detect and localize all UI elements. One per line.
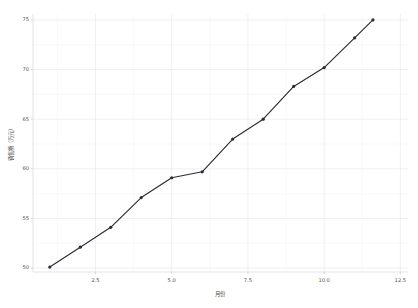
y-tick-label: 50 bbox=[22, 264, 29, 270]
line-chart-canvas[interactable]: 505560657075 2.55.07.510.012.5 月份 销售额（万元… bbox=[0, 0, 418, 308]
series-data-point[interactable] bbox=[262, 118, 265, 121]
x-tick-label: 10.0 bbox=[318, 277, 330, 283]
series-data-point[interactable] bbox=[292, 85, 295, 88]
y-tick-label: 65 bbox=[22, 116, 29, 122]
series-data-point[interactable] bbox=[48, 265, 51, 268]
series-data-point[interactable] bbox=[170, 176, 173, 179]
series-data-point[interactable] bbox=[353, 36, 356, 39]
series-data-point[interactable] bbox=[79, 246, 82, 249]
chart-figure: 505560657075 2.55.07.510.012.5 月份 销售额（万元… bbox=[0, 0, 418, 308]
series-data-point[interactable] bbox=[109, 226, 112, 229]
y-tick-label: 60 bbox=[22, 165, 29, 171]
x-tick-label: 5.0 bbox=[168, 277, 176, 283]
series-data-point[interactable] bbox=[231, 137, 234, 140]
series-data-point[interactable] bbox=[323, 66, 326, 69]
y-tick-label: 55 bbox=[22, 215, 29, 221]
x-tick-label: 7.5 bbox=[244, 277, 252, 283]
x-tick-label: 12.5 bbox=[395, 277, 407, 283]
x-axis-title: 月份 bbox=[215, 290, 226, 298]
y-axis-title: 销售额（万元） bbox=[7, 126, 15, 161]
series-data-point[interactable] bbox=[371, 18, 374, 21]
series-data-point[interactable] bbox=[201, 170, 204, 173]
series-data-point[interactable] bbox=[140, 196, 143, 199]
y-tick-label: 75 bbox=[22, 16, 29, 22]
y-tick-label: 70 bbox=[22, 66, 29, 72]
plot-area-background bbox=[33, 14, 408, 272]
x-tick-label: 2.5 bbox=[91, 277, 99, 283]
